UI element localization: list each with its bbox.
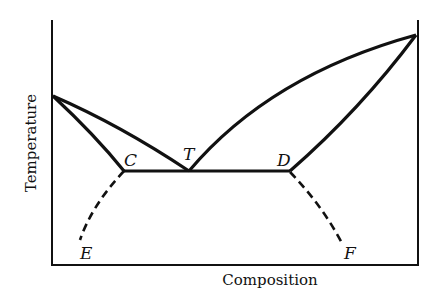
point-label-d: D	[276, 150, 291, 170]
point-label-f: F	[343, 243, 357, 263]
y-axis-label: Temperature	[22, 94, 40, 192]
point-label-c: C	[124, 150, 137, 170]
x-axis-label: Composition	[222, 271, 318, 289]
liquidus-left	[53, 96, 189, 171]
solvus-right-dashed	[290, 172, 343, 245]
solvus-left-dashed	[80, 171, 124, 240]
phase-diagram: C T D E F Composition Temperature	[0, 0, 440, 307]
liquidus-right	[189, 35, 416, 171]
point-label-e: E	[79, 243, 93, 263]
solidus-left	[53, 96, 124, 171]
axes-frame	[52, 20, 418, 265]
point-label-t: T	[183, 144, 196, 164]
